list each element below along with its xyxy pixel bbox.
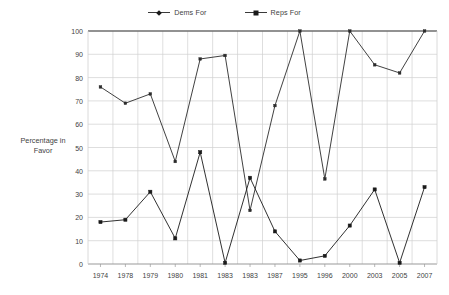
- y-axis-tick-label: 0: [61, 261, 83, 268]
- y-axis-tick-label: 20: [61, 214, 83, 221]
- y-axis-tick-label: 60: [61, 121, 83, 128]
- y-axis-tick-label: 90: [61, 51, 83, 58]
- chart-container: Dems For Reps For Percentage in Favor 01…: [0, 0, 449, 295]
- y-axis-tick-label: 10: [61, 237, 83, 244]
- y-axis-tick-label: 30: [61, 191, 83, 198]
- plot-area: 0102030405060708090100 19741978197919801…: [0, 0, 449, 295]
- y-axis-tick-label: 70: [61, 97, 83, 104]
- grid-layer: [88, 31, 437, 264]
- y-axis-tick-label: 50: [61, 144, 83, 151]
- x-axis-tick-label: 2007: [408, 272, 442, 279]
- y-axis-tick-label: 40: [61, 167, 83, 174]
- y-axis-tick-label: 100: [61, 28, 83, 35]
- y-axis-tick-label: 80: [61, 74, 83, 81]
